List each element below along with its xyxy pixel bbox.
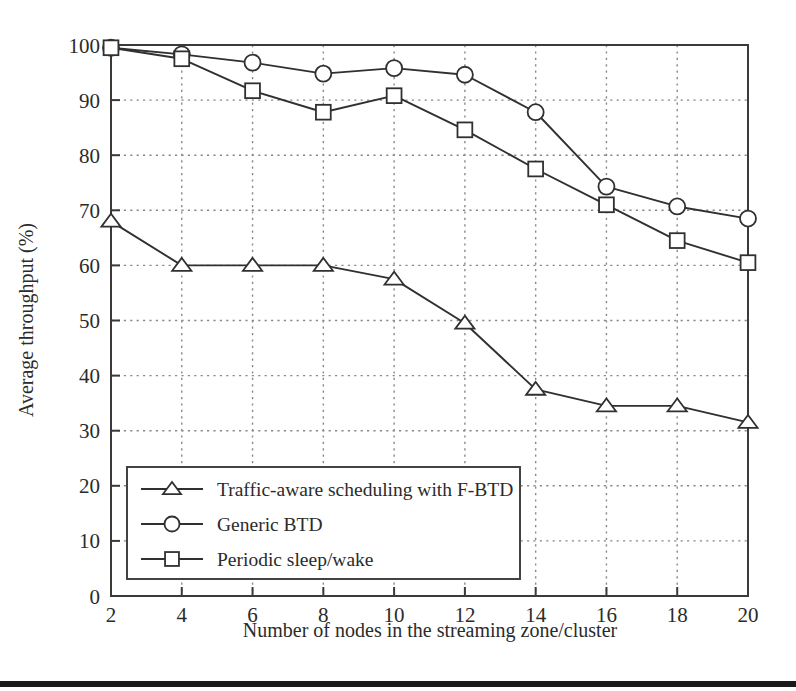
data-point-marker — [741, 255, 756, 270]
x-tick-label: 18 — [667, 603, 688, 627]
data-point-marker — [316, 105, 331, 120]
data-point-marker — [669, 198, 685, 214]
y-tick-label: 20 — [79, 474, 100, 498]
y-tick-label: 50 — [79, 309, 100, 333]
y-tick-label: 0 — [90, 585, 101, 609]
data-point-marker — [315, 66, 331, 82]
legend-label: Traffic-aware scheduling with F-BTD — [217, 479, 513, 500]
y-tick-label: 70 — [79, 199, 100, 223]
x-tick-label: 4 — [177, 603, 188, 627]
y-tick-label: 100 — [69, 34, 101, 58]
y-tick-label: 90 — [79, 89, 100, 113]
legend-marker-square-icon — [165, 552, 179, 566]
y-axis-title: Average throughput (%) — [15, 223, 38, 417]
legend-item-3[interactable]: Periodic sleep/wake — [141, 549, 374, 570]
x-axis-title: Number of nodes in the streaming zone/cl… — [243, 619, 618, 642]
x-tick-label: 20 — [738, 603, 759, 627]
data-point-marker — [457, 67, 473, 83]
throughput-line-chart: 0102030405060708090100 2468101214161820 … — [0, 0, 796, 691]
y-tick-label: 80 — [79, 144, 100, 168]
legend-label: Periodic sleep/wake — [217, 549, 374, 570]
data-point-marker — [245, 55, 261, 71]
data-point-marker — [245, 83, 260, 98]
data-point-marker — [528, 104, 544, 120]
legend-marker-circle-icon — [164, 516, 179, 531]
data-point-marker — [387, 88, 402, 103]
y-tick-label: 40 — [79, 364, 100, 388]
data-point-marker — [599, 197, 614, 212]
data-point-marker — [528, 162, 543, 177]
legend: Traffic-aware scheduling with F-BTDGener… — [127, 467, 520, 579]
y-tick-label: 60 — [79, 254, 100, 278]
data-point-marker — [598, 179, 614, 195]
bottom-divider-rule — [0, 681, 796, 687]
data-point-marker — [457, 122, 472, 137]
data-point-marker — [174, 51, 189, 66]
y-tick-label: 10 — [79, 529, 100, 553]
data-point-marker — [740, 211, 756, 227]
x-tick-label: 2 — [106, 603, 117, 627]
data-point-marker — [670, 233, 685, 248]
data-point-marker — [104, 40, 119, 55]
y-tick-label: 30 — [79, 419, 100, 443]
figure-container: 0102030405060708090100 2468101214161820 … — [0, 0, 796, 691]
data-point-marker — [386, 60, 402, 76]
legend-label: Generic BTD — [217, 514, 323, 535]
